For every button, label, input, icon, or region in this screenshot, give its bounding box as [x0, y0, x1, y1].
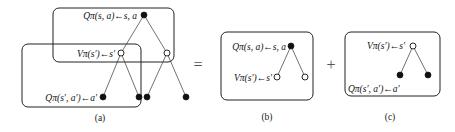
q-leaf-label: Qπ(s′, a′)←a′	[45, 93, 98, 104]
state-action-node	[183, 94, 189, 100]
state-node	[274, 74, 280, 80]
equals-sign: =	[193, 56, 202, 73]
panel-a: Qπ(s, a)←s, a Vπ(s′)←s′ Qπ(s′, a′)←a′ (a…	[22, 8, 189, 124]
edge	[121, 53, 139, 97]
state-action-node	[288, 43, 294, 49]
edge	[147, 53, 167, 97]
edge	[144, 15, 167, 53]
edge	[291, 46, 305, 77]
state-action-node	[425, 72, 431, 78]
v-node-label: Vπ(s′)←s′	[77, 49, 116, 60]
state-action-node	[397, 72, 403, 78]
q-root-label: Qπ(s, a)←s, a	[83, 11, 137, 22]
panel-b: Qπ(s, a)←s, a Vπ(s′)←s′ (b)	[221, 32, 313, 123]
state-node	[118, 50, 124, 56]
edge	[167, 53, 186, 97]
edge	[103, 53, 121, 97]
caption-b: (b)	[261, 112, 272, 123]
plus-sign: +	[326, 56, 335, 73]
v-child-label: Vπ(s′)←s′	[234, 73, 273, 84]
q-root-label: Qπ(s, a)←s, a	[232, 42, 286, 53]
caption-c: (c)	[385, 112, 396, 123]
state-action-node	[136, 94, 142, 100]
panel-c: Vπ(s′)←s′ Qπ(s′, a′)←a′ (c)	[345, 32, 440, 123]
caption-a: (a)	[95, 113, 106, 124]
edge	[413, 46, 428, 75]
state-node	[164, 50, 170, 56]
backup-diagram: Qπ(s, a)←s, a Vπ(s′)←s′ Qπ(s′, a′)←a′ (a…	[0, 0, 455, 132]
state-node	[410, 43, 416, 49]
v-root-label: Vπ(s′)←s′	[367, 41, 406, 52]
state-node	[302, 74, 308, 80]
state-action-node	[141, 12, 147, 18]
state-action-node	[144, 94, 150, 100]
q-child-label: Qπ(s′, a′)←a′	[348, 84, 401, 95]
state-action-node	[100, 94, 106, 100]
